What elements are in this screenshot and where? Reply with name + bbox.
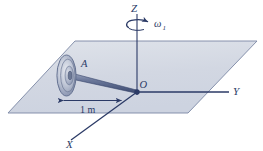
horizontal-plane — [8, 41, 257, 113]
origin-point — [134, 89, 139, 94]
figure-canvas: Z Y X O A 1 m ω 1 — [0, 0, 263, 151]
mechanics-figure: Z Y X O A 1 m ω 1 — [0, 0, 263, 151]
dimension-label-1m: 1 m — [80, 104, 96, 115]
origin-label: O — [140, 79, 148, 90]
z-axis-label: Z — [131, 2, 138, 14]
omega-symbol: ω — [154, 18, 161, 29]
omega-subscript: 1 — [163, 24, 167, 32]
x-axis-label: X — [65, 138, 74, 150]
disk-label-a: A — [80, 58, 88, 69]
y-axis-label: Y — [233, 85, 241, 97]
disk-a — [57, 55, 76, 96]
